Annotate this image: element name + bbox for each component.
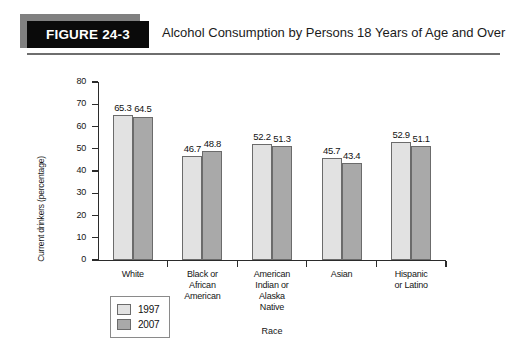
header-divider: [27, 53, 500, 55]
bar-value-label: 48.8: [200, 138, 224, 149]
category-label-line: Native: [237, 302, 307, 313]
category-label-line: Alaska: [237, 291, 307, 302]
bar-2007-1: [133, 117, 153, 261]
y-axis-tick-label: 0: [52, 254, 86, 264]
bar-1997-1: [113, 115, 133, 260]
y-axis-tick-label: 40: [52, 165, 86, 175]
y-axis-tick-label: 20: [52, 210, 86, 220]
bar-2007-4: [342, 163, 362, 260]
category-label-line: American: [168, 291, 238, 302]
bar-2007-5: [411, 146, 431, 260]
category-label-line: Hispanic: [376, 269, 446, 280]
figure-badge: FIGURE 24-3: [27, 21, 149, 48]
x-axis-tick: [306, 261, 307, 267]
y-axis-tick-label: 80: [52, 76, 86, 86]
x-axis-category-label: White: [98, 269, 168, 280]
category-label-line: African: [168, 280, 238, 291]
legend-swatch-icon: [117, 304, 131, 315]
bar-1997-4: [322, 158, 342, 260]
bar-2007-2: [202, 151, 222, 260]
bar-chart: Current drinkers (percentage) 0102030405…: [0, 64, 517, 359]
category-label-line: White: [98, 269, 168, 280]
y-axis-tick-label: 10: [52, 232, 86, 242]
x-axis-tick: [376, 261, 377, 267]
bar-value-label: 51.3: [270, 133, 294, 144]
x-axis-category-label: Asian: [307, 269, 377, 280]
legend-label: 1997: [138, 304, 159, 315]
x-axis-category-label: Black orAfricanAmerican: [168, 269, 238, 302]
figure-header: FIGURE 24-3 Alcohol Consumption by Perso…: [0, 0, 517, 64]
category-label-line: American: [237, 269, 307, 280]
bar-value-label: 43.4: [340, 150, 364, 161]
bar-1997-5: [391, 142, 411, 260]
legend-label: 2007: [138, 319, 159, 330]
category-label-line: Black or: [168, 269, 238, 280]
x-axis-tick: [167, 261, 168, 267]
y-axis-tick-label: 60: [52, 121, 86, 131]
category-label-line: Asian: [307, 269, 377, 280]
y-axis-title: Current drinkers (percentage): [36, 119, 46, 299]
bar-value-label: 64.5: [131, 103, 155, 114]
plot-area: 65.364.546.748.852.251.345.743.452.951.1: [98, 82, 446, 260]
figure-badge-label: FIGURE 24-3: [46, 27, 130, 42]
legend-swatch-icon: [117, 319, 131, 330]
x-axis-category-label: Hispanicor Latino: [376, 269, 446, 291]
category-label-line: Indian or: [237, 280, 307, 291]
figure-title: Alcohol Consumption by Persons 18 Years …: [162, 25, 505, 40]
bar-value-label: 51.1: [409, 133, 433, 144]
legend-item-2007: 2007: [117, 317, 159, 332]
category-label-line: or Latino: [376, 280, 446, 291]
x-axis-tick: [445, 261, 446, 267]
x-axis-line: [98, 260, 446, 261]
chart-legend: 19972007: [110, 296, 170, 338]
legend-item-1997: 1997: [117, 302, 159, 317]
bar-2007-3: [272, 146, 292, 260]
x-axis-tick: [237, 261, 238, 267]
y-axis-tick-label: 70: [52, 98, 86, 108]
bar-1997-2: [182, 156, 202, 260]
y-axis-tick-label: 50: [52, 143, 86, 153]
bar-1997-3: [252, 144, 272, 260]
x-axis-category-label: AmericanIndian orAlaskaNative: [237, 269, 307, 313]
y-axis-tick-label: 30: [52, 187, 86, 197]
